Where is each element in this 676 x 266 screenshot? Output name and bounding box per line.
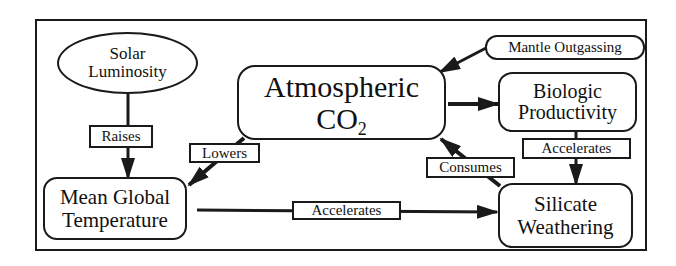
temperature-line2: Temperature: [60, 209, 170, 231]
edge-mantle-to-co2: [440, 48, 486, 72]
co2-main: CO: [316, 102, 358, 135]
solar-line1: Solar: [88, 45, 166, 63]
biologic-line1: Biologic: [518, 81, 617, 102]
node-biologic-productivity: Biologic Productivity: [498, 72, 637, 132]
solar-line2: Luminosity: [88, 63, 166, 81]
silicate-line2: Weathering: [517, 216, 613, 238]
silicate-line1: Silicate: [517, 193, 613, 215]
edge-label-accelerates-biologic: Accelerates: [522, 138, 631, 159]
node-mean-global-temperature: Mean Global Temperature: [43, 177, 187, 240]
node-solar-luminosity: Solar Luminosity: [57, 32, 198, 94]
co2-line1: Atmospheric: [264, 71, 419, 103]
mantle-label: Mantle Outgassing: [508, 40, 622, 56]
co2-line2: CO2: [264, 103, 419, 135]
edge-label-raises: Raises: [89, 125, 153, 148]
co2-subscript: 2: [358, 119, 367, 139]
node-mantle-outgassing: Mantle Outgassing: [485, 35, 645, 60]
node-silicate-weathering: Silicate Weathering: [498, 183, 633, 248]
edge-label-accelerates-temperature: Accelerates: [292, 201, 401, 220]
edge-label-consumes: Consumes: [426, 157, 515, 178]
node-atmospheric-co2: Atmospheric CO2: [237, 65, 446, 140]
temperature-line1: Mean Global: [60, 186, 170, 208]
biologic-line2: Productivity: [518, 102, 617, 123]
edge-label-lowers: Lowers: [189, 143, 260, 163]
